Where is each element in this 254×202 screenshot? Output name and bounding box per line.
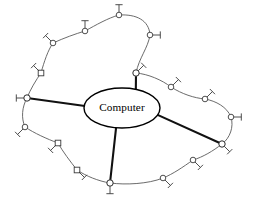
node-circle-icon xyxy=(190,157,196,163)
center-computer-group[interactable]: Computer xyxy=(84,88,160,128)
ring-segment-n11-to-n12 xyxy=(25,127,58,143)
wireless-node-12[interactable] xyxy=(15,124,28,137)
hub-circle-icon xyxy=(219,141,225,147)
antenna-stem-icon xyxy=(195,162,200,167)
node-circle-icon xyxy=(160,175,166,181)
node-square-icon xyxy=(55,140,61,146)
wireless-node-03[interactable] xyxy=(115,5,122,18)
antenna-stem-icon xyxy=(207,92,212,97)
node-circle-icon xyxy=(50,40,56,46)
spoke-center-to-left xyxy=(27,98,85,106)
node-circle-icon xyxy=(168,84,174,90)
wireless-node-09[interactable] xyxy=(160,175,173,188)
computer-label: Computer xyxy=(99,101,145,113)
ring-segment-hubb-to-n10 xyxy=(77,170,110,183)
antenna-stem-icon xyxy=(138,65,143,70)
ring-segment-n09-to-hubb xyxy=(110,178,163,184)
node-square-icon xyxy=(74,167,80,173)
ring-segment-n08-to-n09 xyxy=(163,160,193,178)
node-circle-icon xyxy=(202,96,208,102)
network-svg-canvas: Computer xyxy=(0,0,254,202)
ring-segment-n10-to-n11 xyxy=(58,143,77,170)
ring-segment-n02-to-n03 xyxy=(85,15,119,31)
antenna-stem-icon xyxy=(165,180,170,185)
hub-circle-icon xyxy=(133,70,139,76)
wireless-node-02[interactable] xyxy=(81,21,88,34)
antenna-stem-icon xyxy=(46,36,51,41)
ring-segment-hubr-to-n08 xyxy=(193,144,222,160)
ring-segment-n12-to-hubl xyxy=(23,98,27,127)
ring-segment-n03-to-n04 xyxy=(119,15,150,35)
ring-segment-n04-to-hubtop xyxy=(136,35,150,73)
access-point-left[interactable] xyxy=(16,94,30,101)
ring-segment-left-to-n13 xyxy=(27,73,41,98)
wireless-node-01[interactable] xyxy=(43,33,56,46)
access-point-right[interactable] xyxy=(219,141,232,154)
antenna-stem-icon xyxy=(173,80,178,85)
ring-segment-n06-to-n07 xyxy=(205,99,231,117)
network-topology-diagram: Computer xyxy=(0,0,254,202)
ring-segment-n13-to-n01 xyxy=(41,43,53,73)
node-circle-icon xyxy=(82,28,88,34)
antenna-stem-icon xyxy=(34,66,39,71)
antenna-stem-icon xyxy=(51,145,56,150)
ring-segment-hubtop-to-n05 xyxy=(136,73,171,87)
node-circle-icon xyxy=(116,12,122,18)
wireless-node-04[interactable] xyxy=(147,31,160,38)
node-circle-icon xyxy=(228,114,234,120)
hub-circle-icon xyxy=(107,180,113,186)
spoke-center-to-bottom xyxy=(110,127,116,183)
access-point-bottom[interactable] xyxy=(106,180,113,194)
node-square-icon xyxy=(38,70,44,76)
ring-segment-n07-to-hubr xyxy=(222,117,232,144)
spoke-center-to-right xyxy=(157,115,222,144)
node-circle-icon xyxy=(22,124,28,130)
hub-circle-icon xyxy=(24,95,30,101)
wireless-node-05[interactable] xyxy=(168,77,181,90)
wireless-node-07[interactable] xyxy=(228,113,241,120)
ring-segment-n01-to-n02 xyxy=(53,31,85,43)
node-circle-icon xyxy=(147,32,153,38)
wireless-node-10[interactable] xyxy=(74,167,87,180)
antenna-stem-icon xyxy=(18,129,23,134)
antenna-stem-icon xyxy=(224,146,229,151)
ring-segment-n05-to-n06 xyxy=(171,87,205,99)
